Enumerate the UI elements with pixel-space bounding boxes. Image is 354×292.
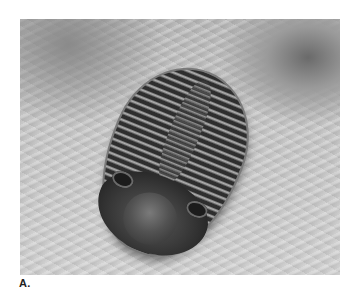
trilobite-fossil [77, 50, 269, 275]
right-eye [184, 198, 210, 221]
trilobite-photo [20, 19, 340, 275]
trilobite-axial-lobe [150, 76, 219, 189]
trilobite-cephalon [85, 156, 220, 271]
figure-label: A. [19, 277, 31, 289]
trilobite-glabella [115, 184, 185, 252]
left-eye [110, 168, 136, 191]
